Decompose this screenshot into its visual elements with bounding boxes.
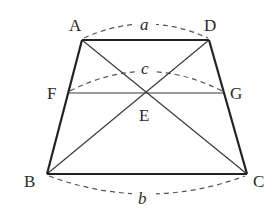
label-C: C: [253, 172, 264, 191]
trapezoid-diagram: A D F G E B C a c b: [0, 0, 275, 211]
label-A: A: [69, 16, 82, 35]
length-label-a: a: [140, 15, 149, 34]
length-label-c: c: [141, 59, 149, 78]
label-D: D: [204, 16, 216, 35]
label-G: G: [230, 84, 242, 103]
length-label-b: b: [138, 189, 147, 208]
label-F: F: [47, 84, 56, 103]
diagonal-AC: [82, 40, 247, 174]
label-B: B: [24, 172, 35, 191]
diagonal-BD: [47, 40, 209, 174]
side-DC: [209, 40, 247, 174]
side-AB: [47, 40, 82, 174]
label-E: E: [139, 106, 149, 125]
